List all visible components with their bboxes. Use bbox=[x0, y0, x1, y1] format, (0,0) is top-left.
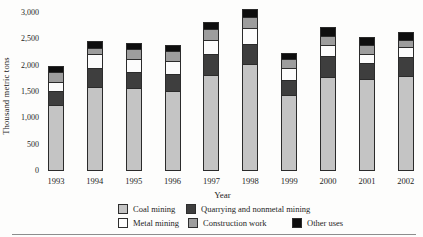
x-axis-tick-label-1995: 1995 bbox=[118, 176, 150, 186]
bar-1993 bbox=[48, 66, 64, 171]
x-axis-tick-label-1993: 1993 bbox=[40, 176, 72, 186]
bar-segment-metal-mining-2000 bbox=[321, 45, 335, 56]
legend-item-other-uses: Other uses bbox=[292, 218, 343, 228]
bar-segment-quarrying-and-nonmetal-mining-1994 bbox=[88, 68, 102, 87]
bar-segment-metal-mining-2002 bbox=[399, 47, 413, 57]
bar-segment-quarrying-and-nonmetal-mining-1998 bbox=[243, 44, 257, 64]
bar-1999 bbox=[281, 53, 297, 171]
legend-label-coal-mining: Coal mining bbox=[133, 204, 175, 214]
x-axis-tick-label-1998: 1998 bbox=[234, 176, 266, 186]
bar-segment-quarrying-and-nonmetal-mining-1995 bbox=[127, 72, 141, 87]
x-axis-title: Year bbox=[60, 190, 385, 200]
bar-2002 bbox=[398, 32, 414, 172]
legend-swatch-other-uses bbox=[292, 218, 302, 228]
bar-segment-quarrying-and-nonmetal-mining-1999 bbox=[282, 80, 296, 95]
bar-segment-construction-work-1993 bbox=[49, 72, 63, 82]
bar-segment-quarrying-and-nonmetal-mining-2001 bbox=[360, 63, 374, 79]
bar-segment-construction-work-2001 bbox=[360, 45, 374, 53]
bottom-rule bbox=[12, 234, 416, 235]
bar-segment-quarrying-and-nonmetal-mining-2000 bbox=[321, 56, 335, 76]
bar-segment-metal-mining-1993 bbox=[49, 82, 63, 92]
bar-segment-metal-mining-1994 bbox=[88, 54, 102, 67]
bar-segment-coal-mining-1998 bbox=[243, 64, 257, 171]
y-axis-tick-label: 3,000 bbox=[7, 8, 39, 17]
legend-swatch-metal-mining bbox=[118, 218, 128, 228]
bar-segment-quarrying-and-nonmetal-mining-1997 bbox=[204, 54, 218, 74]
bar-segment-coal-mining-2000 bbox=[321, 77, 335, 171]
y-axis-tick-label: 1,500 bbox=[7, 87, 39, 96]
x-axis-tick-label-2001: 2001 bbox=[351, 176, 383, 186]
bar-2000 bbox=[320, 27, 336, 171]
legend-item-quarrying-and-nonmetal-mining: Quarrying and nonmetal mining bbox=[186, 204, 310, 214]
y-axis-tick-label: 0 bbox=[7, 166, 39, 175]
bar-segment-metal-mining-2001 bbox=[360, 54, 374, 63]
legend-swatch-quarrying-and-nonmetal-mining bbox=[186, 204, 196, 214]
bar-segment-quarrying-and-nonmetal-mining-1996 bbox=[166, 74, 180, 91]
bar-segment-construction-work-2000 bbox=[321, 36, 335, 45]
bar-segment-construction-work-1994 bbox=[88, 48, 102, 55]
bar-segment-metal-mining-1997 bbox=[204, 40, 218, 54]
bar-segment-other-uses-2001 bbox=[360, 38, 374, 46]
bar-segment-other-uses-2000 bbox=[321, 28, 335, 36]
bar-segment-construction-work-1998 bbox=[243, 17, 257, 28]
legend-label-construction-work: Construction work bbox=[203, 218, 267, 228]
bar-1997 bbox=[203, 22, 219, 171]
bar-1998 bbox=[242, 9, 258, 171]
bar-segment-construction-work-1997 bbox=[204, 29, 218, 40]
y-axis-tick-label: 1,000 bbox=[7, 113, 39, 122]
bar-segment-metal-mining-1996 bbox=[166, 61, 180, 74]
y-axis-tick-label: 2,000 bbox=[7, 61, 39, 70]
legend-swatch-construction-work bbox=[188, 218, 198, 228]
bar-segment-construction-work-2002 bbox=[399, 40, 413, 47]
legend-item-metal-mining: Metal mining bbox=[118, 218, 179, 228]
bar-segment-quarrying-and-nonmetal-mining-2002 bbox=[399, 57, 413, 76]
x-axis-tick-label-1997: 1997 bbox=[195, 176, 227, 186]
bar-segment-quarrying-and-nonmetal-mining-1993 bbox=[49, 91, 63, 104]
bar-segment-other-uses-1998 bbox=[243, 10, 257, 17]
bar-segment-metal-mining-1995 bbox=[127, 59, 141, 72]
bar-segment-coal-mining-1993 bbox=[49, 105, 63, 171]
bar-segment-construction-work-1996 bbox=[166, 51, 180, 61]
bar-segment-construction-work-1999 bbox=[282, 59, 296, 68]
x-axis-tick-label-2000: 2000 bbox=[312, 176, 344, 186]
legend-label-quarrying-and-nonmetal-mining: Quarrying and nonmetal mining bbox=[201, 204, 310, 214]
bar-segment-coal-mining-1994 bbox=[88, 87, 102, 171]
bar-segment-coal-mining-1996 bbox=[166, 91, 180, 171]
legend-item-coal-mining: Coal mining bbox=[118, 204, 175, 214]
bar-segment-metal-mining-1998 bbox=[243, 28, 257, 43]
y-axis-title: Thousand metric tons bbox=[1, 36, 13, 156]
bar-segment-coal-mining-1999 bbox=[282, 95, 296, 171]
x-axis-tick-label-1999: 1999 bbox=[273, 176, 305, 186]
bar-segment-other-uses-2002 bbox=[399, 33, 413, 41]
bar-1996 bbox=[165, 45, 181, 171]
x-axis-tick-label-1996: 1996 bbox=[157, 176, 189, 186]
bar-segment-coal-mining-1997 bbox=[204, 75, 218, 171]
bar-segment-coal-mining-2001 bbox=[360, 79, 374, 170]
legend-label-metal-mining: Metal mining bbox=[133, 218, 179, 228]
y-axis-tick-label: 500 bbox=[7, 140, 39, 149]
legend-swatch-coal-mining bbox=[118, 204, 128, 214]
bar-1994 bbox=[87, 41, 103, 172]
figure: Thousand metric tons 05001,0001,5002,000… bbox=[0, 0, 423, 237]
bar-2001 bbox=[359, 37, 375, 172]
bar-segment-coal-mining-1995 bbox=[127, 88, 141, 171]
x-axis-tick-label-1994: 1994 bbox=[79, 176, 111, 186]
x-axis-tick-label-2002: 2002 bbox=[390, 176, 422, 186]
legend-label-other-uses: Other uses bbox=[307, 218, 343, 228]
bar-segment-coal-mining-2002 bbox=[399, 76, 413, 171]
legend-item-construction-work: Construction work bbox=[188, 218, 267, 228]
bar-1995 bbox=[126, 43, 142, 172]
bar-segment-construction-work-1995 bbox=[127, 49, 141, 59]
y-axis-tick-label: 2,500 bbox=[7, 34, 39, 43]
bar-segment-metal-mining-1999 bbox=[282, 68, 296, 80]
